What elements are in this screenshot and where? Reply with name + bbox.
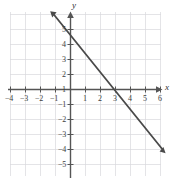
y-tick-label--4: −4 (58, 146, 66, 154)
y-tick-label-2: 2 (62, 71, 66, 79)
x-tick-label--3: −3 (20, 95, 28, 103)
y-tick-label-3: 3 (62, 56, 66, 64)
plot-area (0, 0, 174, 182)
y-axis-label: y (72, 1, 76, 10)
y-tick-label--1: −1 (58, 101, 66, 109)
x-tick-label-6: 6 (158, 95, 162, 103)
x-tick-label-1: 1 (83, 95, 87, 103)
x-tick-label--4: −4 (5, 95, 13, 103)
y-tick-label--3: −3 (58, 131, 66, 139)
x-tick-label-2: 2 (98, 95, 102, 103)
y-tick-label--2: −2 (58, 116, 66, 124)
x-tick-label-5: 5 (143, 95, 147, 103)
y-tick-label-4: 4 (62, 41, 66, 49)
x-axis-label: x (165, 83, 169, 92)
x-tick-label--2: −2 (35, 95, 43, 103)
data-line-series (50, 11, 165, 153)
x-tick-label-3: 3 (113, 95, 117, 103)
y-tick-label--5: −5 (58, 161, 66, 169)
x-tick-label-4: 4 (128, 95, 132, 103)
y-tick-label-5: 5 (62, 26, 66, 34)
x-tick-label--1: −1 (50, 95, 58, 103)
y-tick-label-1: 1 (62, 86, 66, 94)
coordinate-graph: −4 −3 −2 −1 1 2 3 4 5 6 5 4 3 2 1 −1 −2 … (0, 0, 174, 182)
